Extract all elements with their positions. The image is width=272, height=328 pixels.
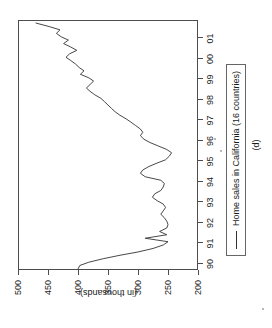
y-tick-label: 500 [14, 280, 23, 310]
x-tick-label: 99 [206, 68, 215, 90]
x-tick-mark [198, 222, 203, 223]
scan-speck-artifact-2 [220, 150, 222, 152]
x-tick-label: 00 [206, 48, 215, 70]
line-chart-plot [18, 20, 198, 270]
y-tick-mark [108, 270, 109, 275]
x-tick-label: 92 [206, 212, 215, 234]
y-axis-title: (in thousands) [49, 288, 169, 297]
rotated-figure-canvas: 200250300350400450500 (in thousands) 909… [0, 0, 272, 328]
x-tick-mark [198, 242, 203, 243]
x-tick-label: 91 [206, 232, 215, 254]
x-tick-label: 93 [206, 191, 215, 213]
x-tick-mark [198, 201, 203, 202]
legend-line-swatch-icon [236, 231, 237, 249]
scan-speck-artifact-3 [262, 308, 264, 310]
x-tick-label: 01 [206, 27, 215, 49]
figure-caption: (d) [252, 20, 261, 270]
y-tick-mark [48, 270, 49, 275]
x-tick-mark [198, 181, 203, 182]
x-tick-label: 96 [206, 130, 215, 152]
x-tick-label: 98 [206, 89, 215, 111]
x-tick-mark [198, 119, 203, 120]
x-tick-label: 97 [206, 109, 215, 131]
x-tick-mark [198, 99, 203, 100]
x-axis: 909192939495969798990001 [198, 20, 224, 270]
x-tick-label: 95 [206, 150, 215, 172]
x-tick-mark [198, 78, 203, 79]
x-tick-mark [198, 58, 203, 59]
series-line-home-sales [36, 23, 172, 269]
y-tick-mark [198, 270, 199, 275]
y-tick-mark [168, 270, 169, 275]
x-tick-mark [198, 37, 203, 38]
scan-speck-artifact [214, 138, 216, 140]
x-tick-mark [198, 160, 203, 161]
y-axis: 200250300350400450500 (in thousands) [18, 270, 198, 310]
x-tick-label: 94 [206, 171, 215, 193]
x-tick-mark [198, 263, 203, 264]
figure-stage: 200250300350400450500 (in thousands) 909… [0, 0, 272, 328]
y-tick-mark [18, 270, 19, 275]
y-tick-label: 200 [194, 280, 203, 310]
chart-legend: Home sales in California (16 countries) [226, 64, 246, 256]
x-tick-mark [198, 140, 203, 141]
legend-label: Home sales in California (16 countries) [232, 71, 241, 226]
y-tick-mark [78, 270, 79, 275]
y-tick-mark [138, 270, 139, 275]
x-tick-label: 90 [206, 253, 215, 275]
chart-figure: 200250300350400450500 (in thousands) 909… [0, 0, 272, 328]
